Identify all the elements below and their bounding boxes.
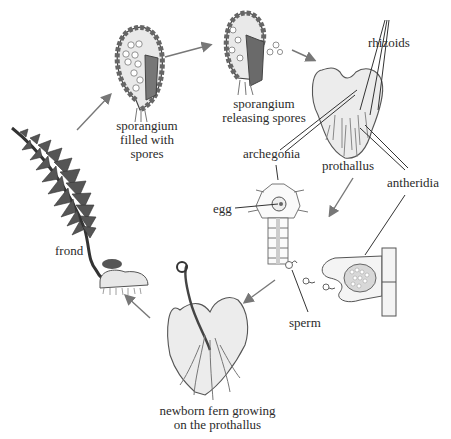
label-prothallus: prothallus xyxy=(322,159,374,173)
diagram-artwork xyxy=(0,0,451,439)
label-sporangium-releasing: sporangium releasing spores xyxy=(214,97,314,125)
fern-life-cycle-diagram: sporangium filled with spores sporangium… xyxy=(0,0,451,439)
label-sporangium-filled: sporangium filled with spores xyxy=(112,119,182,161)
label-antheridia: antheridia xyxy=(387,176,439,190)
label-newborn-fern: newborn fern growing on the prothallus xyxy=(155,404,280,432)
label-egg: egg xyxy=(213,202,232,216)
sporangium-filled-illustration xyxy=(117,27,162,122)
label-sperm: sperm xyxy=(289,316,321,330)
label-frond: frond xyxy=(55,244,83,258)
archegonium-illustration xyxy=(235,165,308,264)
sporangium-releasing-illustration xyxy=(226,13,282,95)
newborn-fern-illustration xyxy=(168,262,248,400)
antheridium-illustration xyxy=(322,195,405,316)
label-rhizoids: rhizoids xyxy=(368,36,410,50)
label-archegonia: archegonia xyxy=(243,147,300,161)
